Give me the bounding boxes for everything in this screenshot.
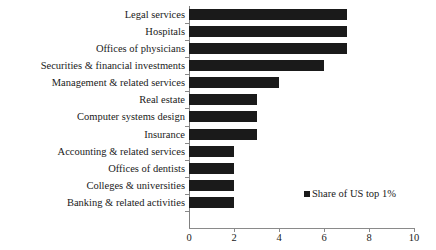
category-label: Banking & related activities: [0, 197, 185, 208]
category-label: Hospitals: [0, 26, 185, 37]
bar-row: [189, 91, 414, 108]
bar: [189, 9, 347, 20]
bar: [189, 77, 279, 88]
category-label: Management & related services: [0, 77, 185, 88]
category-label: Insurance: [0, 129, 185, 140]
category-label: Offices of dentists: [0, 163, 185, 174]
bar: [189, 94, 257, 105]
bar: [189, 43, 347, 54]
category-label: Securities & financial investments: [0, 60, 185, 71]
bar-row: [189, 40, 414, 57]
bar: [189, 26, 347, 37]
category-label: Computer systems design: [0, 111, 185, 122]
bar-row: [189, 143, 414, 160]
bar: [189, 146, 234, 157]
x-tick-label: 0: [174, 232, 204, 243]
bar: [189, 111, 257, 122]
x-tick-label: 10: [399, 232, 429, 243]
x-tick-label: 6: [309, 232, 339, 243]
legend-swatch-icon: [304, 191, 310, 197]
category-label: Colleges & universities: [0, 180, 185, 191]
bar-row: [189, 6, 414, 23]
bar: [189, 197, 234, 208]
bar: [189, 180, 234, 191]
bar-row: [189, 74, 414, 91]
category-label: Accounting & related services: [0, 146, 185, 157]
bar: [189, 129, 257, 140]
bar: [189, 60, 324, 71]
bar-row: [189, 57, 414, 74]
bar-row: [189, 160, 414, 177]
x-tick-label: 8: [354, 232, 384, 243]
legend: Share of US top 1%: [304, 188, 396, 199]
bar-row: [189, 126, 414, 143]
category-label: Offices of physicians: [0, 43, 185, 54]
category-label: Legal services: [0, 9, 185, 20]
bar-row: [189, 108, 414, 125]
bar: [189, 163, 234, 174]
x-tick-label: 2: [219, 232, 249, 243]
legend-label: Share of US top 1%: [312, 188, 396, 199]
bar-row: [189, 23, 414, 40]
bar-chart: Legal servicesHospitalsOffices of physic…: [0, 0, 436, 250]
category-label: Real estate: [0, 94, 185, 105]
x-tick-label: 4: [264, 232, 294, 243]
x-axis-line: [189, 228, 415, 229]
